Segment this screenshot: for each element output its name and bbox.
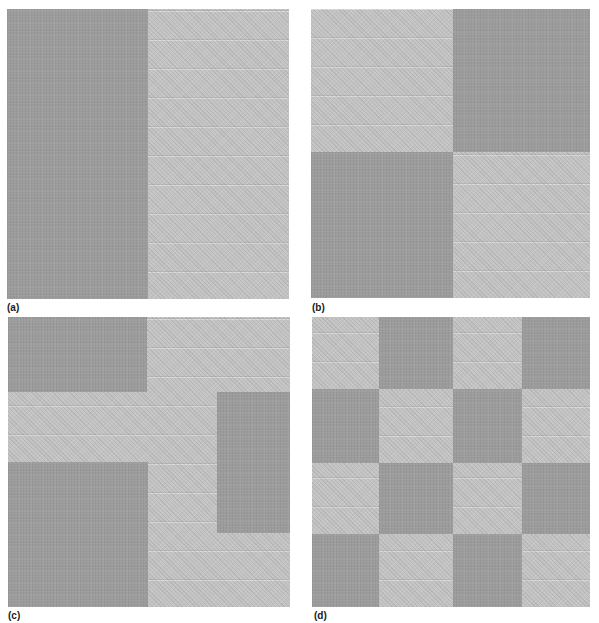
panel-b-dark-top-right (453, 9, 590, 152)
panel-a-dark-region-left (7, 9, 148, 299)
panel-a-light-region-right (148, 9, 289, 299)
panel-b-light-bottom-right (453, 152, 590, 298)
panel-b-light-top-left (311, 9, 453, 152)
panel-d-cell-r2c4 (522, 389, 590, 463)
panel-c (8, 317, 290, 607)
panel-d-cell-r1c1 (312, 317, 379, 389)
panel-d-cell-r4c2 (379, 534, 453, 607)
panel-c-dark-top-left (8, 317, 147, 392)
panel-d-cell-r3c2 (379, 463, 453, 534)
panel-d-cell-r2c3 (453, 389, 522, 463)
panel-d-cell-r4c4 (522, 534, 590, 607)
panel-d-cell-r1c3 (453, 317, 522, 389)
panel-d-cell-r1c4 (522, 317, 590, 389)
panel-d-cell-r3c1 (312, 463, 379, 534)
panel-d-cell-r4c3 (453, 534, 522, 607)
panel-d-cell-r1c2 (379, 317, 453, 389)
panel-d-cell-r4c1 (312, 534, 379, 607)
panel-d-cell-r3c4 (522, 463, 590, 534)
panel-c-dark-bottom-left (8, 462, 148, 607)
panel-b-label: (b) (312, 302, 325, 313)
panel-d-label: (d) (314, 610, 327, 621)
panel-a (7, 9, 289, 299)
panel-a-label: (a) (7, 302, 19, 313)
panel-d-cell-r2c2 (379, 389, 453, 463)
panel-d-cell-r2c1 (312, 389, 379, 463)
panel-d-cell-r3c3 (453, 463, 522, 534)
panel-b-dark-bottom-left (311, 152, 453, 298)
panel-b (311, 9, 590, 298)
panel-d (312, 317, 590, 607)
panel-c-dark-middle-right (217, 392, 290, 533)
panel-c-label: (c) (8, 610, 20, 621)
